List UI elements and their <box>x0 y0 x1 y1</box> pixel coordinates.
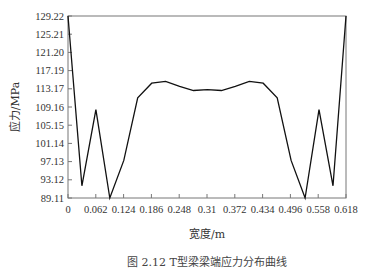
figure-caption: 图 2.12 T型梁梁端应力分布曲线 <box>127 255 287 269</box>
y-tick-label: 105.15 <box>35 120 64 131</box>
plot-area: 89.1193.1297.13101.14105.15109.16113.171… <box>8 11 358 270</box>
y-tick-label: 109.16 <box>35 102 64 113</box>
x-tick-label: 0.496 <box>279 204 303 215</box>
x-axis-label: 宽度/m <box>189 227 226 241</box>
x-tick-label: 0.124 <box>112 204 136 215</box>
y-tick-label: 113.17 <box>36 83 65 94</box>
x-tick-label: 0.618 <box>334 204 358 215</box>
y-tick-label: 93.12 <box>40 174 64 185</box>
x-tick-label: 0.434 <box>251 204 275 215</box>
x-tick-label: 0.372 <box>223 204 247 215</box>
y-tick-label: 89.11 <box>41 193 64 204</box>
y-tick-label: 101.14 <box>35 138 65 149</box>
x-tick-label: 0.558 <box>306 204 330 215</box>
y-tick-label: 121.20 <box>35 47 64 58</box>
stress-line <box>68 16 346 198</box>
y-tick-label: 117.19 <box>36 65 65 76</box>
x-tick-label: 0 <box>65 204 70 215</box>
y-tick-label: 97.13 <box>40 156 64 167</box>
stress-distribution-chart: 89.1193.1297.13101.14105.15109.16113.171… <box>0 0 373 272</box>
y-tick-label: 125.21 <box>35 29 64 40</box>
x-tick-label: 0.186 <box>140 204 164 215</box>
x-tick-label: 0.062 <box>84 204 108 215</box>
x-tick-label: 0.248 <box>167 204 191 215</box>
y-axis-label: 应力/MPa <box>8 81 22 132</box>
x-tick-label: 0.31 <box>198 204 216 215</box>
plot-frame <box>68 16 346 198</box>
y-tick-label: 129.22 <box>35 11 64 22</box>
